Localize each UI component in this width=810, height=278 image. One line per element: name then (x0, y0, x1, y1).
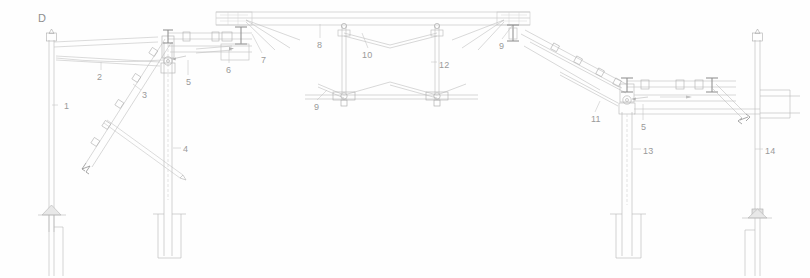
leader-11 (595, 101, 600, 112)
detail-tag-d: D (38, 12, 46, 24)
callout-label-9b: 9 (499, 41, 504, 51)
callout-label-1: 1 (64, 101, 69, 111)
callout-label-5: 5 (186, 77, 191, 87)
callout-label-5b: 5 (641, 122, 646, 132)
diagonal-strut-3 (82, 39, 171, 174)
callout-label-2: 2 (97, 72, 102, 82)
roof-edge-beam (216, 12, 530, 50)
right-upper-beam (621, 78, 760, 124)
callout-label-9a: 9 (314, 102, 319, 112)
leader-9b (502, 26, 512, 39)
callout-label-13: 13 (643, 146, 653, 156)
callout-label-10: 10 (362, 50, 372, 60)
callout-label-11: 11 (591, 114, 601, 124)
callout-label-14: 14 (765, 146, 775, 156)
right-column-node (610, 84, 648, 258)
callout-leader-lines (52, 24, 763, 149)
callout-label-8: 8 (317, 40, 322, 50)
callout-label-12: 12 (439, 60, 449, 70)
left-tie-beams (54, 37, 163, 66)
structural-elevation-drawing (0, 0, 810, 278)
left-column (153, 42, 186, 258)
callout-label-3: 3 (142, 90, 147, 100)
callout-label-7: 7 (261, 55, 266, 65)
raking-strut-11 (521, 30, 626, 106)
callout-label-4: 4 (183, 144, 188, 154)
leader-10 (362, 33, 368, 48)
drawing-sheet: 123456789910111251314 D (0, 0, 810, 278)
upper-beam-left (163, 27, 252, 60)
right-node-9 (507, 25, 519, 41)
left-mast-assembly (38, 29, 66, 276)
leader-7 (252, 34, 262, 53)
callout-label-6: 6 (226, 65, 231, 75)
central-truss (305, 23, 478, 106)
node-5-pin-connection (161, 36, 186, 73)
